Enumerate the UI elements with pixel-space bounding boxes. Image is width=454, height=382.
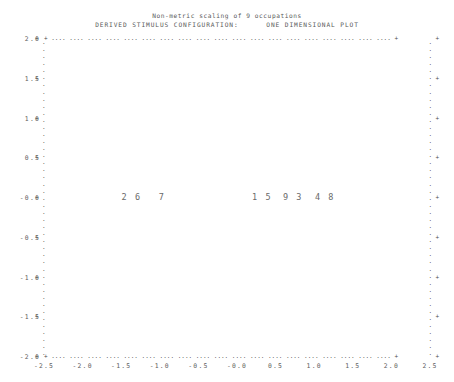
data-point-label-2: 1 5 <box>252 192 272 202</box>
data-point-labels: 2 671 59 34 8 <box>0 0 454 382</box>
data-point-label-4: 4 8 <box>315 192 335 202</box>
data-point-label-0: 2 6 <box>122 192 142 202</box>
data-point-label-3: 9 3 <box>283 192 303 202</box>
data-point-label-1: 7 <box>159 192 166 202</box>
spss-character-plot: Non-metric scaling of 9 occupations DERI… <box>0 0 454 382</box>
